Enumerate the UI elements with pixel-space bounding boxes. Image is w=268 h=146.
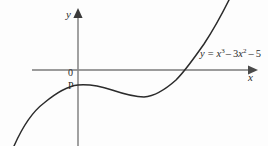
graph-figure: y x 0 P y=x3–3x2–5 (0, 0, 268, 146)
equation-equals: = (208, 48, 214, 59)
cubic-curve (14, 0, 229, 146)
y-axis-arrowhead (73, 8, 82, 18)
origin-label: 0 (68, 68, 73, 78)
graph-canvas (0, 0, 268, 146)
equation-term2-exponent: 2 (243, 47, 247, 55)
equation-term3-constant: 5 (256, 48, 261, 59)
equation-label: y=x3–3x2–5 (200, 49, 261, 60)
x-axis-label: x (248, 72, 253, 83)
equation-operator-1: – (226, 48, 231, 59)
equation-lhs: y (200, 48, 205, 59)
equation-operator-2: – (248, 48, 253, 59)
y-axis-label: y (66, 9, 71, 20)
point-p-label: P (68, 81, 74, 91)
equation-term1-exponent: 3 (221, 47, 225, 55)
